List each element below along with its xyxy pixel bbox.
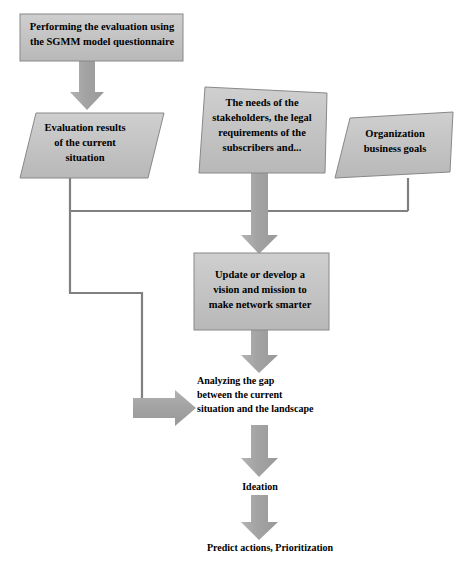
diagram-canvas: Performing the evaluation using the SGMM… bbox=[0, 0, 463, 562]
node-stakeholder-needs[interactable] bbox=[199, 87, 327, 173]
arrow-evaluation-down bbox=[70, 60, 104, 110]
arrow-ideation-to-predict bbox=[241, 495, 278, 540]
node-evaluation-results[interactable] bbox=[20, 113, 164, 178]
node-vision-mission[interactable] bbox=[194, 253, 329, 330]
arrow-gap-to-ideation bbox=[241, 425, 278, 477]
arrow-vision-to-gap bbox=[241, 330, 278, 373]
arrow-needs-down bbox=[241, 172, 278, 254]
connector-bus-line bbox=[70, 178, 408, 211]
flowchart-graphic bbox=[0, 0, 463, 562]
node-performing-evaluation[interactable] bbox=[20, 14, 183, 61]
node-organization-goals[interactable] bbox=[335, 112, 453, 178]
